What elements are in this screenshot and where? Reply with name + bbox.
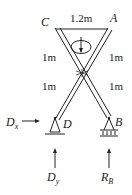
label-c: C <box>41 15 50 29</box>
label-left-lower-dim: 1m <box>42 80 57 92</box>
label-right-upper-dim: 1m <box>109 51 124 63</box>
force-dx-arrow-icon <box>22 119 40 123</box>
label-right-lower-dim: 1m <box>109 80 124 92</box>
label-dx: Dx <box>5 115 19 131</box>
label-left-upper-dim: 1m <box>42 51 57 63</box>
label-a: A <box>109 11 118 25</box>
label-b: B <box>115 115 123 129</box>
truss-diagram: C 1.2m A 1m 1m 1m 1m D B Dx Dy RB <box>0 0 132 195</box>
label-top-dim: 1.2m <box>70 12 93 24</box>
pin-support-d-icon <box>45 117 65 134</box>
label-d: D <box>62 117 72 131</box>
label-rb: RB <box>100 170 113 186</box>
force-rb-arrow-icon <box>107 148 111 168</box>
label-dy: Dy <box>46 170 60 186</box>
force-dy-arrow-icon <box>53 148 57 168</box>
